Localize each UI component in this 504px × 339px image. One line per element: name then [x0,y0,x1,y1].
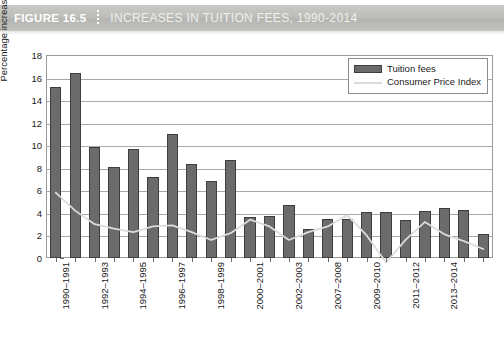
y-tick-label: 0 [16,253,42,264]
x-tick-label: 1998–1999 [215,262,226,310]
x-tick-mark [367,258,368,262]
chart-container: Percentage increase 024681012141618 1990… [0,36,504,339]
y-tick-label: 12 [16,117,42,128]
x-tick-label: 2007–2008 [332,262,343,310]
y-tick-mark [60,258,64,259]
x-tick-mark [425,258,426,262]
x-tick-mark [56,258,57,262]
legend-label-tuition-fees: Tuition fees [387,63,436,76]
x-tick-label: 1992–1993 [99,262,110,310]
x-tick-label: 2013–2014 [448,262,459,310]
x-tick-mark [347,258,348,262]
y-tick-label: 14 [16,95,42,106]
x-tick-mark [444,258,445,262]
y-tick-label: 16 [16,72,42,83]
y-tick-label: 2 [16,230,42,241]
x-tick-label: 2009–2010 [371,262,382,310]
legend-bar-swatch [354,65,382,73]
x-tick-mark [250,258,251,262]
x-tick-mark [464,258,465,262]
x-tick-mark [133,258,134,262]
x-tick-mark [386,258,387,262]
y-axis-title: Percentage increase [0,0,9,98]
dotted-divider-icon [97,10,99,26]
x-tick-label: 2011–2012 [410,262,421,309]
x-tick-mark [192,258,193,262]
chart-legend: Tuition fees Consumer Price Index [348,58,488,94]
y-tick-label: 10 [16,140,42,151]
x-tick-mark [114,258,115,262]
figure-banner: FIGURE 16.5 INCREASES IN TUITION FEES, 1… [0,5,504,31]
y-tick-label: 8 [16,162,42,173]
figure-title: INCREASES IN TUITION FEES, 1990-2014 [110,11,357,25]
y-tick-label: 4 [16,207,42,218]
x-tick-mark [328,258,329,262]
x-tick-mark [75,258,76,262]
legend-item-consumer-price-index: Consumer Price Index [354,76,481,89]
x-tick-mark [231,258,232,262]
legend-line-swatch [354,78,382,86]
y-tick-label: 18 [16,50,42,61]
x-tick-label: 2000–2001 [254,262,265,310]
x-axis-tick-labels: 1990–19911992–19931994–19951996–19971998… [46,262,493,338]
cpi-polyline [56,193,484,263]
x-tick-label: 2002–2003 [293,262,304,310]
x-tick-mark [211,258,212,262]
x-tick-mark [172,258,173,262]
x-tick-mark [406,258,407,262]
x-tick-mark [289,258,290,262]
legend-item-tuition-fees: Tuition fees [354,63,481,76]
legend-label-consumer-price-index: Consumer Price Index [387,76,481,89]
y-axis-tick-labels: 024681012141618 [14,55,42,258]
x-tick-mark [270,258,271,262]
x-tick-label: 1996–1997 [176,262,187,310]
x-tick-label: 1990–1991 [60,262,71,310]
x-tick-mark [483,258,484,262]
x-tick-mark [308,258,309,262]
y-tick-label: 6 [16,185,42,196]
x-tick-mark [95,258,96,262]
x-tick-label: 1994–1995 [137,262,148,310]
figure-number: FIGURE 16.5 [0,12,86,24]
x-tick-mark [153,258,154,262]
